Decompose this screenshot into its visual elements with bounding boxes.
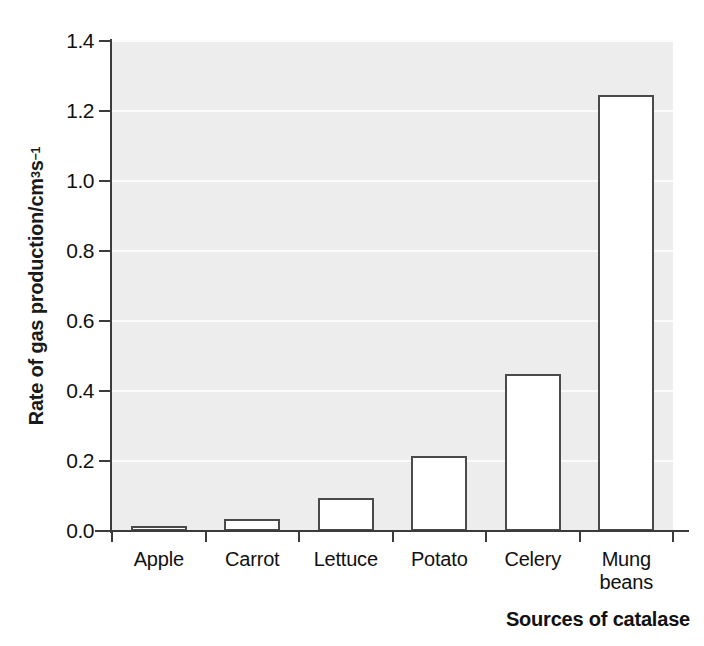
x-axis-tick-label-potato: Potato bbox=[393, 548, 487, 571]
x-axis-tick-label-line: Mung bbox=[580, 548, 674, 571]
x-axis-tick-label-line: Celery bbox=[486, 548, 580, 571]
y-axis-tick-label: 0.6 bbox=[26, 310, 94, 331]
x-axis-tick-label-line: Carrot bbox=[206, 548, 300, 571]
x-axis-tick bbox=[392, 531, 394, 542]
y-axis-tick-label: 0.2 bbox=[26, 450, 94, 471]
x-axis-tick-label-line: Apple bbox=[112, 548, 206, 571]
x-axis-tick bbox=[485, 531, 487, 542]
bar-chart-figure: Rate of gas production/cm3 s−1 0.00.20.4… bbox=[0, 0, 704, 646]
x-axis-tick-label-apple: Apple bbox=[112, 548, 206, 571]
y-axis-tick-label: 0.0 bbox=[26, 520, 94, 541]
x-axis-tick bbox=[111, 531, 113, 542]
x-axis-tick-label-carrot: Carrot bbox=[206, 548, 300, 571]
x-axis-title: Sources of catalase bbox=[300, 608, 690, 631]
y-axis-tick-label: 1.2 bbox=[26, 100, 94, 121]
x-axis-tick bbox=[205, 531, 207, 542]
x-axis-tick-label-line: Lettuce bbox=[299, 548, 393, 571]
x-axis-tick-label-line: Potato bbox=[393, 548, 487, 571]
x-axis-tick-label-celery: Celery bbox=[486, 548, 580, 571]
y-axis-tick-label: 1.4 bbox=[26, 30, 94, 51]
y-axis-tick-label: 1.0 bbox=[26, 170, 94, 191]
x-axis-tick-label-line: beans bbox=[580, 571, 674, 594]
y-axis-tick-label: 0.8 bbox=[26, 240, 94, 261]
x-axis-tick-label-lettuce: Lettuce bbox=[299, 548, 393, 571]
x-axis-tick bbox=[298, 531, 300, 542]
x-axis-tick bbox=[579, 531, 581, 542]
y-axis-tick-label: 0.4 bbox=[26, 380, 94, 401]
x-axis-tick bbox=[672, 531, 674, 542]
x-axis-tick-label-mung-beans: Mungbeans bbox=[580, 548, 674, 594]
